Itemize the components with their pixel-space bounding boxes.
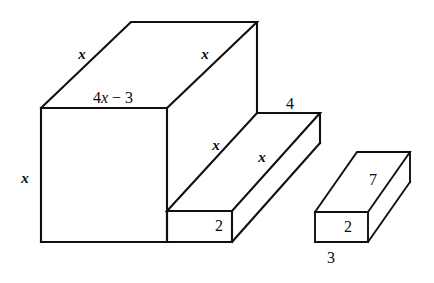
label-three-small-width: 3 [327,249,335,266]
label-x-front-height: x [20,170,29,186]
label-four-step-back: 4 [286,95,294,112]
label-two-step-front: 2 [215,217,223,234]
label-x-step-far: x [257,149,266,165]
label-seven-small-depth: 7 [369,171,377,188]
box-front-face [41,108,167,242]
label-x-top-right: x [200,46,209,62]
label-two-small-height: 2 [344,218,352,235]
geometry-diagram: x x 4x − 3 x x x 4 2 7 2 3 [0,0,434,283]
label-x-top-left: x [77,46,86,62]
diagram-canvas: x x 4x − 3 x x x 4 2 7 2 3 [0,0,434,283]
label-four-x-minus-three: 4x − 3 [93,89,133,106]
small-box-front-face [315,212,368,242]
large-step-solid: x x 4x − 3 x x x 4 2 [20,22,320,242]
label-x-step-near: x [211,137,220,153]
small-box-solid: 7 2 3 [315,152,410,266]
